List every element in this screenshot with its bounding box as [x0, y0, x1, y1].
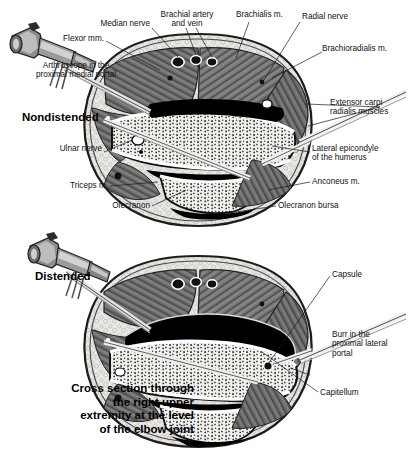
label-triceps-muscle: Triceps m. — [30, 181, 108, 190]
label-anconeus-muscle: Anconeus m. — [312, 177, 396, 186]
label-brachial-artery-and-vein: Brachial artery and vein — [146, 10, 228, 29]
label-brachialis-muscle: Brachialis m. — [236, 10, 310, 19]
label-ulnar-nerve: Ulnar nerve — [24, 144, 102, 153]
label-capitellum: Capitellum — [320, 388, 394, 397]
label-capsule: Capsule — [332, 270, 398, 279]
label-lateral-epicondyle: Lateral epicondyle of the humerus — [312, 144, 406, 163]
label-extensor-carpi-radialis: Extensor carpi radialis muscles — [330, 98, 406, 117]
label-olecranon-bursa: Olecranon bursa — [278, 201, 374, 210]
arthroscope-instrument-bottom — [28, 232, 110, 299]
label-arthroscope-portal: Arthroscope in the proximal medial porta… — [18, 61, 134, 80]
figure-caption: Cross section through the right upper ex… — [8, 382, 194, 436]
label-radial-nerve: Radial nerve — [302, 12, 374, 21]
label-brachioradialis-muscle: Brachioradialis m. — [322, 44, 408, 53]
label-flexor-muscles: Flexor mm. — [28, 34, 104, 43]
state-label-distended: Distended — [35, 270, 91, 282]
label-olecranon: Olecranon — [72, 201, 150, 210]
label-median-nerve: Median nerve — [58, 19, 150, 28]
state-label-nondistended: Nondistended — [22, 111, 99, 123]
label-burr-portal: Burr in the proximal lateral portal — [332, 330, 404, 358]
